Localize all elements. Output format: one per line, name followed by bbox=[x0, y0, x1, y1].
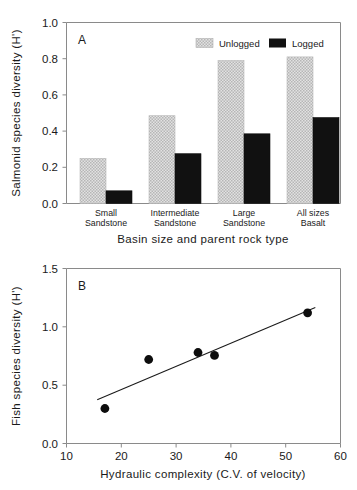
panel-b-ytick-1: 0.5 bbox=[42, 379, 58, 391]
panel-b-xtick-4: 50 bbox=[279, 450, 292, 462]
category-label-intermediate-sandstone-line2: Sandstone bbox=[154, 218, 196, 228]
bar-unlogged-small-sandstone bbox=[80, 158, 106, 203]
panel-b-y-axis-title: Fish species diversity (H') bbox=[10, 286, 22, 426]
legend-swatch-logged bbox=[269, 39, 286, 48]
category-label-large-sandstone-line2: Sandstone bbox=[223, 218, 265, 228]
bar-unlogged-all-sizes-basalt bbox=[287, 57, 313, 204]
panel-b-ytick-3: 1.5 bbox=[42, 263, 58, 275]
panel-b-x-axis-title: Hydraulic complexity (C.V. of velocity) bbox=[100, 468, 306, 480]
panel-b-xtick-5: 60 bbox=[334, 450, 347, 462]
panel-a-ytick-4: 0.8 bbox=[42, 53, 58, 65]
panel-a-y-axis-title: Salmonid species diversity (H') bbox=[10, 29, 22, 197]
bar-logged-small-sandstone bbox=[106, 191, 132, 204]
figure-container: 0.0 0.2 0.4 0.6 0.8 1.0 Salmonid species… bbox=[0, 0, 357, 490]
panel-a-category-labels: Small Sandstone Intermediate Sandstone L… bbox=[85, 208, 330, 228]
panel-a-letter: A bbox=[78, 33, 86, 47]
category-label-all-sizes-basalt-line1: All sizes bbox=[297, 208, 330, 218]
panel-b-ytick-0: 0.0 bbox=[42, 438, 58, 450]
legend-swatch-unlogged bbox=[196, 39, 213, 48]
scatter-point-1 bbox=[101, 404, 110, 413]
category-label-small-sandstone-line2: Sandstone bbox=[85, 218, 127, 228]
panel-b-y-ticks bbox=[63, 269, 67, 444]
panel-b-trendline bbox=[97, 308, 315, 400]
panel-a-y-ticks bbox=[63, 23, 67, 204]
figure-svg: 0.0 0.2 0.4 0.6 0.8 1.0 Salmonid species… bbox=[0, 0, 357, 490]
scatter-point-4 bbox=[210, 351, 219, 360]
bar-unlogged-intermediate-sandstone bbox=[149, 116, 175, 204]
bar-unlogged-large-sandstone bbox=[218, 61, 244, 204]
legend-label-unlogged: Unlogged bbox=[219, 38, 260, 49]
legend-label-logged: Logged bbox=[292, 38, 324, 49]
panel-b-letter: B bbox=[78, 279, 86, 293]
panel-a-ytick-2: 0.4 bbox=[42, 125, 59, 137]
scatter-point-2 bbox=[144, 355, 153, 364]
panel-a-ytick-0: 0.0 bbox=[42, 198, 58, 210]
panel-a-ytick-5: 1.0 bbox=[42, 17, 58, 29]
panel-b-ytick-2: 1.0 bbox=[42, 321, 58, 333]
bar-logged-large-sandstone bbox=[244, 134, 270, 204]
bar-logged-all-sizes-basalt bbox=[313, 118, 339, 204]
panel-a-ytick-1: 0.2 bbox=[42, 161, 58, 173]
category-label-small-sandstone-line1: Small bbox=[95, 208, 117, 218]
panel-b-xtick-3: 40 bbox=[225, 450, 238, 462]
panel-a-ytick-3: 0.6 bbox=[42, 89, 58, 101]
category-label-intermediate-sandstone-line1: Intermediate bbox=[151, 208, 200, 218]
panel-b-xtick-1: 20 bbox=[115, 450, 128, 462]
panel-b-x-ticks bbox=[67, 444, 341, 448]
scatter-point-3 bbox=[194, 348, 203, 357]
panel-b-xtick-2: 30 bbox=[170, 450, 183, 462]
category-label-large-sandstone-line1: Large bbox=[233, 208, 256, 218]
panel-a-legend: Unlogged Logged bbox=[196, 38, 324, 49]
category-label-all-sizes-basalt-line2: Basalt bbox=[301, 218, 326, 228]
panel-a-x-axis-title: Basin size and parent rock type bbox=[117, 233, 288, 245]
bar-logged-intermediate-sandstone bbox=[175, 154, 201, 204]
panel-b-xtick-0: 10 bbox=[60, 450, 73, 462]
panel-b: 0.0 0.5 1.0 1.5 10 20 30 40 50 60 Fish s… bbox=[10, 263, 347, 481]
panel-a: 0.0 0.2 0.4 0.6 0.8 1.0 Salmonid species… bbox=[10, 17, 341, 246]
scatter-point-5 bbox=[303, 308, 312, 317]
